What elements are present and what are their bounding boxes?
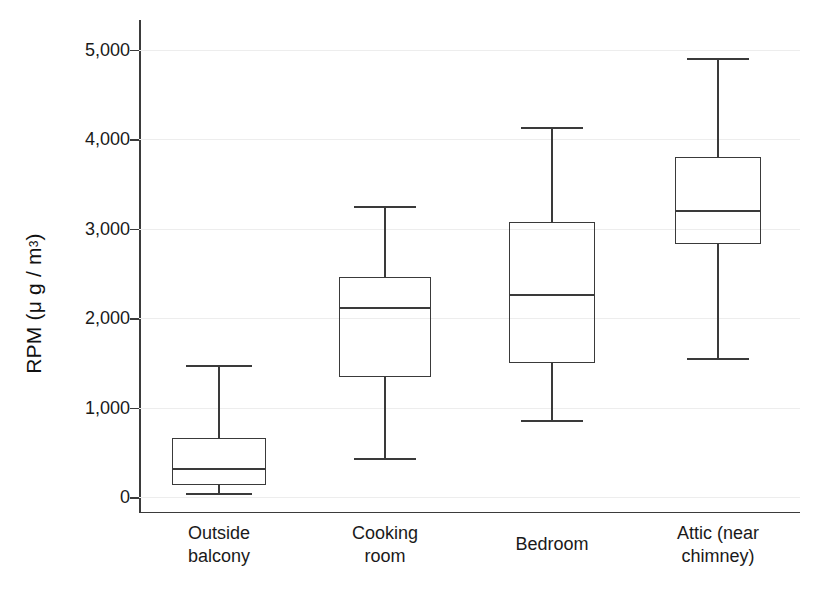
y-axis-tick-mark xyxy=(130,497,139,499)
x-axis-line xyxy=(139,512,800,514)
x-axis-category-label: Bedroom xyxy=(472,533,632,556)
y-axis-title-text: RPM (μ g / m xyxy=(22,247,46,374)
whisker-upper-stem xyxy=(551,127,553,222)
gridline xyxy=(139,50,800,51)
gridline xyxy=(139,318,800,319)
whisker-lower-stem xyxy=(717,244,719,358)
whisker-lower-stem xyxy=(218,485,220,493)
whisker-lower-cap xyxy=(687,358,749,360)
plot-area xyxy=(139,20,800,513)
y-axis-tick-mark xyxy=(130,318,139,320)
y-axis-tick-mark xyxy=(130,229,139,231)
y-axis-tick-mark xyxy=(130,139,139,141)
whisker-upper-cap xyxy=(354,206,416,208)
gridline xyxy=(139,408,800,409)
whisker-upper-stem xyxy=(717,58,719,156)
median-line xyxy=(675,210,761,212)
gridline xyxy=(139,497,800,498)
x-axis-category-label: Outside balcony xyxy=(139,522,299,568)
whisker-lower-stem xyxy=(384,377,386,458)
whisker-lower-cap xyxy=(354,458,416,460)
y-axis-title: RPM (μ g / m3) xyxy=(14,0,54,607)
y-axis-title-tail: ) xyxy=(22,233,46,240)
median-line xyxy=(339,307,431,309)
y-axis-tick-label: 5,000 xyxy=(60,39,130,60)
y-axis-tick-mark xyxy=(130,408,139,410)
whisker-upper-cap xyxy=(687,58,749,60)
whisker-lower-cap xyxy=(186,493,252,495)
y-axis-tick-label: 3,000 xyxy=(60,218,130,239)
x-axis-category-label: Cooking room xyxy=(305,522,465,568)
whisker-upper-stem xyxy=(384,206,386,277)
whisker-lower-cap xyxy=(521,420,583,422)
whisker-upper-stem xyxy=(218,365,220,438)
median-line xyxy=(509,294,595,296)
box-iqr[interactable] xyxy=(509,222,595,363)
x-axis-category-label: Attic (near chimney) xyxy=(638,522,798,568)
y-axis-tick-mark xyxy=(130,50,139,52)
y-axis-line xyxy=(139,20,141,513)
y-axis-tick-label: 4,000 xyxy=(60,129,130,150)
y-axis-tick-label: 0 xyxy=(60,487,130,508)
box-iqr[interactable] xyxy=(172,438,266,485)
whisker-upper-cap xyxy=(186,365,252,367)
whisker-lower-stem xyxy=(551,363,553,420)
box-iqr[interactable] xyxy=(675,157,761,244)
y-axis-tick-label: 1,000 xyxy=(60,397,130,418)
y-axis-tick-label: 2,000 xyxy=(60,308,130,329)
box-iqr[interactable] xyxy=(339,277,431,377)
boxplot-chart: RPM (μ g / m3) 01,0002,0003,0004,0005,00… xyxy=(0,0,822,607)
whisker-upper-cap xyxy=(521,127,583,129)
y-axis-tick-labels: 01,0002,0003,0004,0005,000 xyxy=(52,0,130,607)
gridline xyxy=(139,139,800,140)
median-line xyxy=(172,468,266,470)
